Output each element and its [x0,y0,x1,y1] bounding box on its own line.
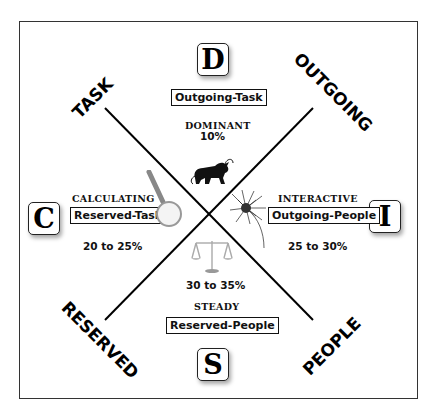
magnifying-glass-icon [145,170,185,230]
percent-dominant: 10% [200,130,225,142]
trait-interactive: INTERACTIVE [278,193,358,204]
letter-box-c: C [28,202,60,235]
tag-reserved-people: Reserved-People [166,317,279,334]
tag-outgoing-task: Outgoing-Task [171,89,267,106]
firework-icon [228,188,274,250]
trait-calculating: CALCULATING [72,193,155,204]
scales-icon [190,238,234,274]
tag-outgoing-people: Outgoing-People [268,207,380,224]
percent-interactive: 25 to 30% [288,240,347,252]
letter-box-s: S [197,348,229,381]
percent-steady: 30 to 35% [186,279,245,291]
trait-steady: STEADY [194,301,239,312]
bull-icon [189,156,235,188]
letter-box-d: D [197,43,229,76]
percent-calculating: 20 to 25% [83,240,142,252]
